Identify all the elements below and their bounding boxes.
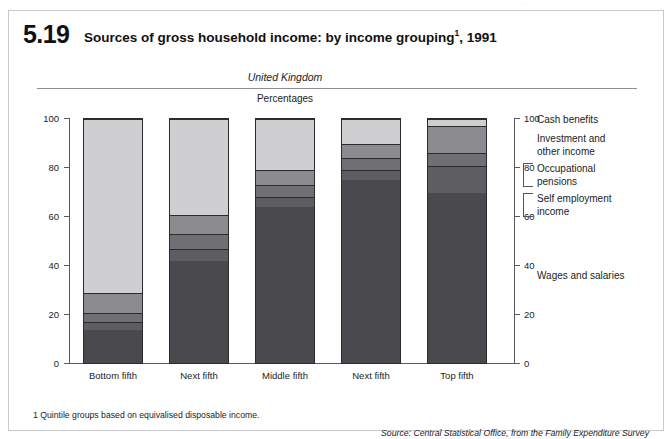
segment-occupational-pensions	[83, 313, 143, 323]
segment-occupational-pensions	[169, 234, 229, 249]
figure-title-main: Sources of gross household income: by in…	[84, 30, 455, 45]
y-tick-left-40	[64, 265, 69, 266]
plot-box: 0 0 20 20 40 40 60 60 80 80 100	[69, 118, 515, 364]
units-label: Percentages	[25, 93, 545, 104]
bar-middle-fifth-2[interactable]	[255, 119, 315, 364]
segment-investment-and-other-income	[341, 144, 401, 159]
figure-number: 5.19	[23, 19, 69, 49]
y-axis-left	[69, 118, 70, 364]
segment-wages-and-salaries	[83, 330, 143, 364]
y-ticklabel-left-100: 100	[29, 114, 59, 123]
legend-item-cash-benefits: Cash benefits	[537, 114, 649, 127]
figure-title-year: , 1991	[459, 30, 497, 45]
segment-cash-benefits	[341, 119, 401, 144]
legend-bracket-self-employment	[523, 193, 533, 217]
y-axis-right	[514, 118, 515, 364]
region-label: United Kingdom	[25, 71, 545, 83]
bar-top-fifth-4[interactable]	[427, 119, 487, 364]
y-tick-right-20	[515, 314, 520, 315]
segment-cash-benefits	[427, 119, 487, 126]
segment-cash-benefits	[83, 119, 143, 293]
segment-occupational-pensions	[341, 158, 401, 170]
figure-title: Sources of gross household income: by in…	[84, 24, 497, 47]
segment-self-employment-income	[427, 166, 487, 193]
segment-self-employment-income	[341, 170, 401, 180]
segment-occupational-pensions	[427, 153, 487, 165]
y-tick-right-40	[515, 265, 520, 266]
segment-wages-and-salaries	[169, 261, 229, 364]
legend-item-self-employment-line2: income	[537, 206, 649, 219]
segment-investment-and-other-income	[255, 170, 315, 185]
segment-investment-and-other-income	[169, 215, 229, 235]
page-top-edge: . . . . .	[0, 0, 672, 9]
y-ticklabel-left-0: 0	[29, 359, 59, 368]
y-tick-left-0	[64, 363, 69, 364]
y-tick-right-80	[515, 167, 520, 168]
segment-self-employment-income	[83, 322, 143, 329]
y-ticklabel-left-80: 80	[29, 163, 59, 172]
legend-item-self-employment: Self employment income	[537, 193, 649, 218]
legend-item-wages-salaries: Wages and salaries	[537, 270, 649, 283]
y-tick-left-60	[64, 216, 69, 217]
legend: Cash benefits Investment and other incom…	[523, 118, 649, 368]
legend-item-occupational-pensions: Occupational pensions	[537, 163, 649, 188]
legend-item-occupational-pensions-line1: Occupational	[537, 163, 649, 176]
y-tick-right-0	[515, 363, 520, 364]
y-ticklabel-left-40: 40	[29, 261, 59, 270]
figure-source: Source: Central Statistical Office, from…	[381, 428, 649, 438]
y-tick-left-80	[64, 167, 69, 168]
legend-item-self-employment-line1: Self employment	[537, 193, 649, 206]
figure-header: 5.19 Sources of gross household income: …	[17, 19, 637, 59]
figure-panel: 5.19 Sources of gross household income: …	[8, 10, 664, 431]
y-ticklabel-left-20: 20	[29, 310, 59, 319]
figure-footnote: 1 Quintile groups based on equivalised d…	[33, 410, 260, 420]
y-tick-right-100	[515, 118, 520, 119]
x-axis-label-1: Next fifth	[154, 370, 244, 381]
segment-self-employment-income	[169, 249, 229, 261]
y-tick-right-60	[515, 216, 520, 217]
bar-next-fifth-1[interactable]	[169, 119, 229, 364]
legend-item-occupational-pensions-line2: pensions	[537, 176, 649, 189]
x-axis-label-3: Next fifth	[326, 370, 416, 381]
segment-cash-benefits	[169, 119, 229, 215]
segment-investment-and-other-income	[83, 293, 143, 313]
x-axis-label-4: Top fifth	[412, 370, 502, 381]
legend-bracket-occupational-pensions	[523, 163, 533, 187]
bar-next-fifth-3[interactable]	[341, 119, 401, 364]
segment-wages-and-salaries	[255, 207, 315, 364]
x-axis-label-0: Bottom fifth	[68, 370, 158, 381]
y-tick-left-20	[64, 314, 69, 315]
y-ticklabel-left-60: 60	[29, 212, 59, 221]
segment-self-employment-income	[255, 197, 315, 207]
legend-item-investment-other-line1: Investment and	[537, 133, 649, 146]
segment-occupational-pensions	[255, 185, 315, 197]
chart-area: United Kingdom Percentages 0 0 20 20 40 …	[25, 71, 649, 401]
segment-wages-and-salaries	[427, 193, 487, 365]
legend-item-investment-other: Investment and other income	[537, 133, 649, 158]
segment-investment-and-other-income	[427, 126, 487, 153]
legend-item-investment-other-line2: other income	[537, 146, 649, 159]
x-axis-label-2: Middle fifth	[240, 370, 330, 381]
segment-wages-and-salaries	[341, 180, 401, 364]
segment-cash-benefits	[255, 119, 315, 170]
bar-bottom-fifth-0[interactable]	[83, 119, 143, 364]
header-divider	[37, 88, 637, 89]
y-tick-left-100	[64, 118, 69, 119]
